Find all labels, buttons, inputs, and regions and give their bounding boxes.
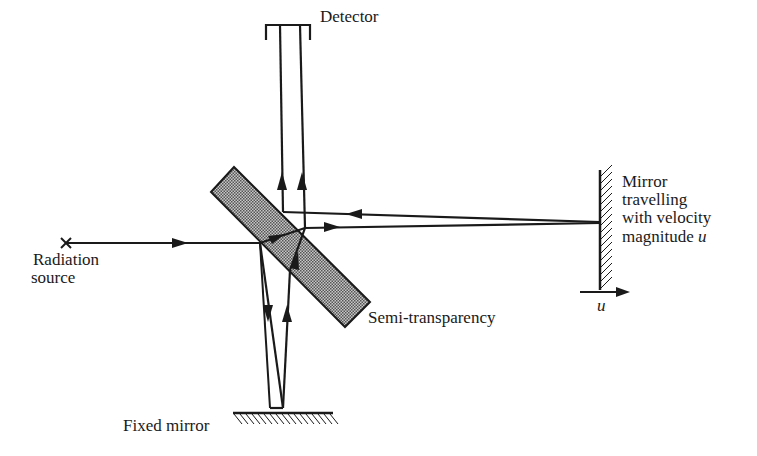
- source-beam: [67, 228, 305, 408]
- semi-transparency-label: Semi-transparency: [368, 308, 495, 327]
- arrowhead-icon: [282, 305, 292, 322]
- arrowhead-icon: [324, 222, 340, 232]
- fixed-mirror-icon: [233, 413, 338, 424]
- detector-beams: [280, 25, 305, 228]
- arrowhead-icon: [277, 172, 307, 190]
- fixed-mirror-label: Fixed mirror: [123, 416, 209, 435]
- radiation-source-label-line2: source: [31, 268, 75, 287]
- moving-mirror-label-line4: magnitude u: [622, 227, 707, 246]
- semi-transparency-slab: [211, 167, 370, 327]
- moving-mirror-label-line2: travelling: [622, 190, 687, 209]
- detector-icon: [266, 25, 310, 40]
- arrowhead-icon: [346, 209, 362, 219]
- arrowhead-icon: [172, 238, 188, 248]
- moving-mirror-label-line1: Mirror: [622, 172, 667, 191]
- detector-label: Detector: [320, 7, 379, 26]
- moving-mirror-icon: [600, 165, 612, 290]
- velocity-arrow-label: u: [597, 296, 606, 315]
- velocity-symbol: u: [698, 227, 707, 246]
- interferometer-diagram: Detector Radiation source Semi-transpare…: [0, 0, 757, 456]
- radiation-source-label-line1: Radiation: [33, 250, 99, 269]
- moving-mirror-label-line3: with velocity: [622, 208, 711, 227]
- magnitude-text: magnitude: [622, 227, 698, 246]
